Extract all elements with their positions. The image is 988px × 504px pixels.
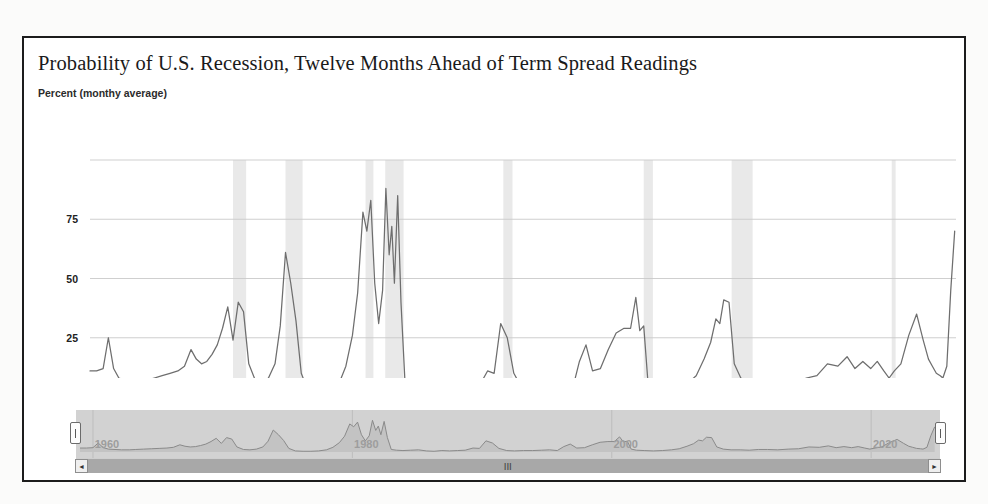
y-axis-labels-group: 0255075 [66, 213, 78, 378]
navigator-x-tick-label: 2000 [614, 438, 638, 450]
scrollbar-grip-icon[interactable]: ||| [504, 462, 512, 470]
recession-bands-group [233, 160, 896, 378]
handle-grip-icon [75, 429, 76, 438]
navigator-area-group [80, 420, 935, 452]
y-tick-label: 75 [66, 213, 78, 225]
recession-probability-line [90, 188, 955, 378]
handle-grip-icon [940, 429, 941, 438]
navigator-x-tick-label: 1960 [95, 438, 119, 450]
navigator-x-tick-label: 1980 [354, 438, 378, 450]
scroll-right-arrow-icon[interactable]: ► [928, 459, 941, 473]
series-line-group [90, 188, 955, 378]
chart-figure-frame: Probability of U.S. Recession, Twelve Mo… [22, 36, 966, 482]
chart-navigator[interactable]: 1960198020002020 ◄ ||| ► [76, 410, 940, 478]
y-tick-label: 50 [66, 273, 78, 285]
navigator-handle-left[interactable] [70, 422, 81, 444]
navigator-svg: 1960198020002020 [76, 410, 940, 458]
navigator-handle-right[interactable] [935, 422, 946, 444]
page-root: Probability of U.S. Recession, Twelve Mo… [0, 0, 988, 504]
gridlines-group [90, 160, 956, 378]
navigator-preview[interactable]: 1960198020002020 [76, 410, 940, 458]
navigator-scrollbar[interactable]: ◄ ||| ► [76, 458, 940, 473]
y-tick-label: 25 [66, 332, 78, 344]
navigator-x-tick-label: 2020 [873, 438, 897, 450]
main-chart-svg: 0255075 1960197019801990200020102020 [24, 38, 964, 378]
main-chart-plot[interactable]: 0255075 1960197019801990200020102020 [24, 38, 964, 378]
scroll-left-arrow-icon[interactable]: ◄ [75, 459, 88, 473]
